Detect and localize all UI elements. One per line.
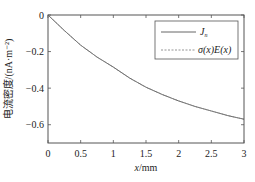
x-axis-label-unit: /mm	[139, 162, 158, 173]
x-tick-label: 1	[111, 148, 116, 159]
legend-label-sigma-e: σ(x)E(x)	[198, 44, 232, 56]
x-tick-label: 1.5	[140, 148, 153, 159]
chart: 00.511.522.530−0.2−0.4−0.6 电流密度/(nA·m⁻²)…	[0, 0, 255, 182]
y-tick-label: −0.4	[26, 83, 44, 94]
x-tick-label: 0.5	[74, 148, 87, 159]
x-axis-label: x/mm	[134, 162, 158, 173]
y-axis-label: 电流密度/(nA·m⁻²)	[2, 39, 15, 120]
x-tick-label: 3	[242, 148, 247, 159]
y-tick-label: −0.2	[26, 46, 44, 57]
x-tick-label: 2	[176, 148, 181, 159]
x-tick-label: 0	[46, 148, 51, 159]
y-tick-label: 0	[39, 10, 44, 21]
legend: Jn σ(x)E(x)	[155, 21, 238, 59]
x-tick-label: 2.5	[205, 148, 218, 159]
legend-label-jn-sub: n	[204, 32, 207, 38]
y-tick-label: −0.6	[26, 119, 44, 130]
